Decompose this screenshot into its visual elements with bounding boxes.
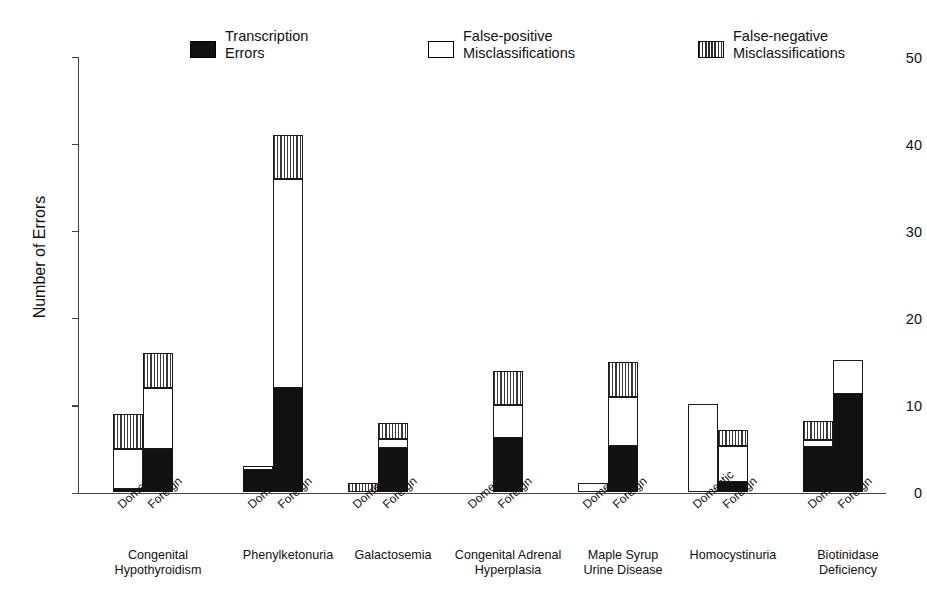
y-tick-label-40: 40 — [860, 138, 922, 153]
legend-swatch-hatch-icon — [698, 41, 724, 58]
bar-segment-hatch — [718, 430, 748, 447]
y-tick-0 — [72, 493, 79, 494]
bar-segment-hatch — [113, 414, 143, 449]
bar-segment-hatch — [143, 353, 173, 388]
bar-segment-white — [608, 397, 638, 447]
bar-segment-white — [378, 439, 408, 448]
y-tick-label-20: 20 — [860, 312, 922, 327]
legend-item-false-negative: False-negative Misclassifications — [698, 28, 845, 61]
bar-segment-hatch — [378, 423, 408, 440]
bar-segment-hatch — [608, 362, 638, 397]
y-tick-label-50: 50 — [860, 51, 922, 66]
chart-legend: Transcription Errors False-positive Misc… — [190, 28, 890, 74]
bar-segment-hatch — [273, 135, 303, 179]
y-tick-40 — [72, 144, 79, 145]
legend-swatch-black-icon — [190, 41, 216, 58]
y-tick-label-30: 30 — [860, 225, 922, 240]
legend-label-transcription-errors: Transcription Errors — [225, 28, 308, 61]
legend-swatch-white-icon — [428, 41, 454, 58]
y-axis-title: Number of Errors — [31, 147, 49, 367]
y-tick-10 — [72, 405, 79, 406]
bar-segment-white — [143, 388, 173, 449]
y-tick-label-10: 10 — [860, 399, 922, 414]
group-label-6: Biotinidase Deficiency — [768, 548, 927, 578]
y-tick-30 — [72, 231, 79, 232]
bar-segment-hatch — [493, 371, 523, 406]
bar-segment-white — [493, 405, 523, 437]
bar-segment-white — [833, 360, 863, 394]
legend-item-false-positive: False-positive Misclassifications — [428, 28, 575, 61]
bar-segment-white — [273, 179, 303, 388]
bar-segment-hatch — [803, 421, 833, 440]
legend-item-transcription-errors: Transcription Errors — [190, 28, 308, 61]
y-tick-50 — [72, 57, 79, 58]
y-tick-20 — [72, 318, 79, 319]
legend-label-false-positive: False-positive Misclassifications — [463, 28, 575, 61]
legend-label-false-negative: False-negative Misclassifications — [733, 28, 845, 61]
bar-segment-white — [803, 440, 833, 447]
y-axis-line — [78, 57, 79, 493]
bar-foreign-group-1 — [273, 135, 303, 492]
bar-segment-white — [243, 466, 273, 470]
